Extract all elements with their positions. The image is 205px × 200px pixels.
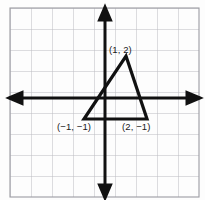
coordinate-plane-figure: (1, 2) (−1, −1) (2, −1) bbox=[0, 0, 205, 200]
vertex-label-apex: (1, 2) bbox=[109, 44, 132, 55]
coordinate-plane-svg bbox=[0, 0, 205, 200]
vertex-label-bottom-right: (2, −1) bbox=[122, 121, 150, 132]
vertex-label-bottom-left: (−1, −1) bbox=[57, 121, 91, 132]
